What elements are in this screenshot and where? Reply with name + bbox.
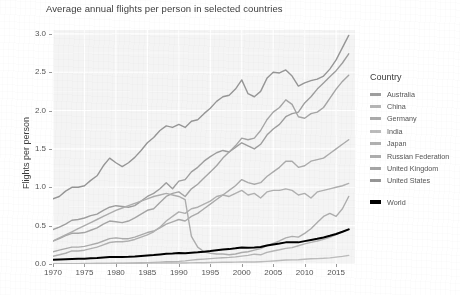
legend-swatch-united-states [370, 179, 381, 182]
legend: Country AustraliaChinaGermanyIndiaJapanR… [370, 72, 460, 187]
legend-swatch-japan [370, 142, 381, 145]
legend-label: Germany [387, 114, 417, 123]
legend-swatch-china [370, 105, 381, 108]
legend-swatch-world [370, 200, 381, 204]
plot-area [53, 30, 355, 264]
y-tick-label: 3.0 [0, 29, 46, 38]
y-tick-label: 0.5 [0, 221, 46, 230]
legend-label: Russian Federation [387, 152, 449, 161]
legend-label-world: World [387, 198, 406, 207]
legend-item-russian-federation[interactable]: Russian Federation [370, 150, 460, 162]
y-tick-label: 1.5 [0, 144, 46, 153]
x-tick-mark [116, 264, 117, 267]
y-tick-mark [49, 187, 52, 188]
legend-label: United Kingdom [387, 164, 438, 173]
legend-title: Country [370, 72, 460, 82]
y-tick-label: 2.5 [0, 67, 46, 76]
x-tick-mark [53, 264, 54, 267]
legend-item-india[interactable]: India [370, 125, 460, 137]
legend-item-japan[interactable]: Japan [370, 138, 460, 150]
legend-label: China [387, 102, 406, 111]
legend-swatch-germany [370, 117, 381, 120]
y-tick-label: 1.0 [0, 182, 46, 191]
legend-swatch-russian-federation [370, 155, 381, 158]
x-tick-mark [179, 264, 180, 267]
x-tick-mark [305, 264, 306, 267]
x-tick-mark [336, 264, 337, 267]
legend-label: Japan [387, 139, 407, 148]
plot-svg [53, 30, 355, 264]
x-tick-mark [84, 264, 85, 267]
y-tick-label: 2.0 [0, 106, 46, 115]
y-tick-label: 0.0 [0, 259, 46, 268]
legend-item-australia[interactable]: Australia [370, 88, 460, 100]
x-tick-mark [147, 264, 148, 267]
y-tick-mark [49, 226, 52, 227]
legend-item-united-states[interactable]: United States [370, 175, 460, 187]
x-tick-mark [210, 264, 211, 267]
y-axis-label: Flights per person [21, 83, 31, 223]
legend-item-germany[interactable]: Germany [370, 113, 460, 125]
legend-swatch-united-kingdom [370, 167, 381, 170]
x-tick-label: 2015 [316, 268, 356, 277]
legend-label: India [387, 127, 403, 136]
y-tick-mark [49, 72, 52, 73]
legend-label: United States [387, 176, 430, 185]
legend-items: AustraliaChinaGermanyIndiaJapanRussian F… [370, 88, 460, 187]
legend-item-world[interactable]: World [370, 196, 460, 208]
legend-item-united-kingdom[interactable]: United Kingdom [370, 162, 460, 174]
y-tick-mark [49, 34, 52, 35]
x-tick-mark [242, 264, 243, 267]
y-tick-mark [49, 149, 52, 150]
chart-title: Average annual flights per person in sel… [46, 3, 283, 14]
y-tick-mark [49, 111, 52, 112]
legend-world: World [370, 196, 460, 208]
legend-item-china[interactable]: China [370, 100, 460, 112]
legend-swatch-india [370, 130, 381, 133]
legend-swatch-australia [370, 93, 381, 96]
legend-label: Australia [387, 90, 415, 99]
x-tick-mark [273, 264, 274, 267]
chart-figure: Average annual flights per person in sel… [0, 0, 460, 295]
y-tick-mark [49, 264, 52, 265]
